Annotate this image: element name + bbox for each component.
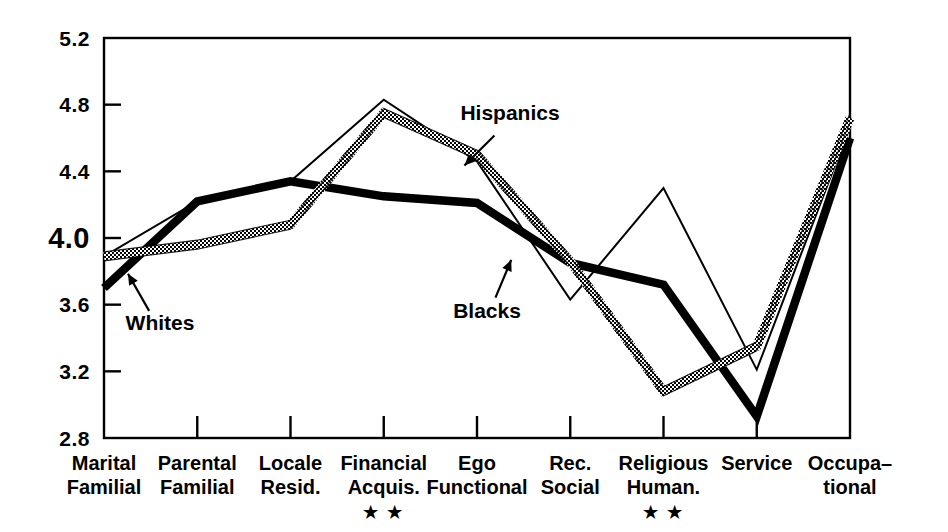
chart-container: 2.83.23.64.04.44.85.2 WhitesBlacksHispan… xyxy=(0,0,948,532)
y-tick-label-4.0: 4.0 xyxy=(48,222,90,254)
x-category-label-line: Acquis. xyxy=(348,476,420,498)
x-category-label-line: Familial xyxy=(160,476,234,498)
x-category-2: LocaleResid. xyxy=(259,452,322,498)
x-category-label-line: Functional xyxy=(426,476,527,498)
x-category-label-line: Financial xyxy=(340,452,427,474)
annotation-blacks: Blacks xyxy=(453,260,521,322)
x-category-label-line: Locale xyxy=(259,452,322,474)
line-chart: 2.83.23.64.04.44.85.2 WhitesBlacksHispan… xyxy=(0,0,948,532)
x-axis-ticks xyxy=(197,416,757,438)
data-series-group xyxy=(104,100,850,417)
x-category-label-line: Service xyxy=(721,452,792,474)
annotation-label: Blacks xyxy=(453,299,521,322)
x-category-label-line: Familial xyxy=(67,476,141,498)
annotation-label: Whites xyxy=(126,311,195,334)
x-category-label-line: Parental xyxy=(158,452,237,474)
x-category-label-line: tional xyxy=(823,476,876,498)
y-tick-label-4.8: 4.8 xyxy=(59,93,90,116)
y-tick-label-4.4: 4.4 xyxy=(59,160,90,183)
x-category-label-line: Rec. xyxy=(549,452,591,474)
x-category-label-line: Human. xyxy=(627,476,700,498)
x-category-label-line: Ego xyxy=(458,452,496,474)
x-category-label-line: Social xyxy=(541,476,600,498)
x-category-label-line: Religious xyxy=(618,452,708,474)
significance-mark: ★ ★ xyxy=(363,503,404,522)
x-category-label-line: Occupa– xyxy=(808,452,892,474)
annotation-hispanics: Hispanics xyxy=(460,101,559,166)
x-category-8: Occupa–tional xyxy=(808,452,892,498)
x-category-3: FinancialAcquis. xyxy=(340,452,427,498)
x-category-label-line: Marital xyxy=(72,452,136,474)
x-category-7: Service xyxy=(721,452,792,474)
y-tick-label-2.8: 2.8 xyxy=(59,427,90,450)
x-category-5: Rec.Social xyxy=(541,452,600,498)
y-tick-label-3.2: 3.2 xyxy=(59,360,90,383)
series-whites xyxy=(104,138,850,416)
x-axis-category-labels: MaritalFamilialParentalFamilialLocaleRes… xyxy=(67,452,892,498)
annotation-whites: Whites xyxy=(126,274,195,334)
x-category-label-line: Resid. xyxy=(260,476,320,498)
series-blacks xyxy=(104,100,850,370)
x-category-6: ReligiousHuman. xyxy=(618,452,708,498)
y-tick-label-3.6: 3.6 xyxy=(59,293,90,316)
significance-marks: ★ ★★ ★ xyxy=(363,503,683,522)
x-category-1: ParentalFamilial xyxy=(158,452,237,498)
annotation-label: Hispanics xyxy=(460,101,559,124)
x-category-0: MaritalFamilial xyxy=(67,452,141,498)
significance-mark: ★ ★ xyxy=(643,503,684,522)
y-tick-label-5.2: 5.2 xyxy=(59,27,90,50)
y-axis-tick-labels: 2.83.23.64.04.44.85.2 xyxy=(48,27,90,450)
y-axis-ticks xyxy=(104,105,121,372)
x-category-4: EgoFunctional xyxy=(426,452,527,498)
